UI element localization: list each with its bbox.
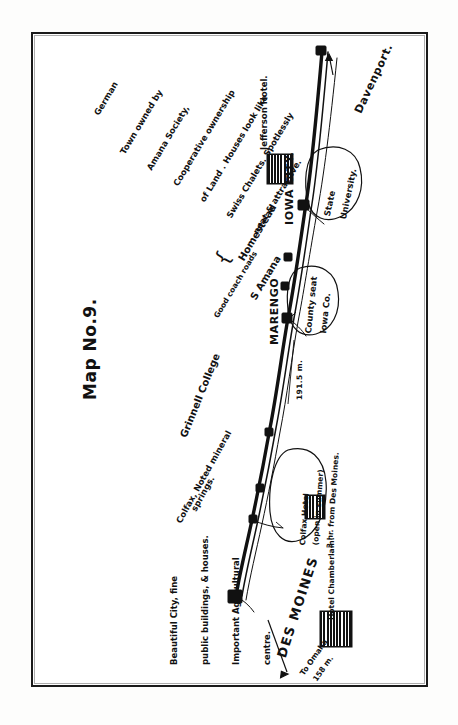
amana-desc-line-5: Swiss Chalets. Spotlessly [224,109,296,220]
label-distance-marengo: 191.5 m. [295,360,304,400]
des-moines-description: Beautiful City, fine public buildings, &… [148,535,293,665]
map-page: Map No.9. Davenport. Jefferson Hotel. IO… [0,0,458,725]
amana-desc-line-2: Amana Society, [144,61,216,172]
hotel-chamberlain-line1: Hotel Chamberlain. [327,537,336,620]
des-moines-desc-line-1: Beautiful City, fine [169,535,179,665]
des-moines-desc-line-4: centre. [262,535,272,665]
map-title: Map No.9. [80,298,101,400]
amana-desc-line-3: Cooperative ownership [171,77,243,188]
label-marengo: MARENGO [268,278,281,345]
amana-desc-line-4: of Land . Houses look like [198,93,270,204]
des-moines-desc-line-2: public buildings, & houses. [200,535,210,665]
des-moines-desc-line-3: Important Agricultural [231,535,241,665]
label-hotel-chamberlain: Hotel Chamberlain. [308,537,354,620]
